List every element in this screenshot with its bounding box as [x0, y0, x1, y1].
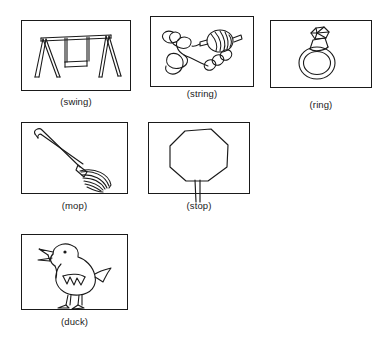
- stop-drawing: [148, 122, 250, 204]
- ring-drawing: [270, 20, 372, 88]
- panel-caption-stop: (stop): [148, 200, 250, 211]
- panel-caption-ring: (ring): [270, 99, 372, 110]
- mop-drawing: [21, 122, 128, 194]
- panel-caption-swing: (swing): [21, 96, 131, 107]
- panel-caption-duck: (duck): [21, 316, 128, 327]
- worksheet-sheet: (swing): [0, 0, 391, 349]
- panel-caption-string: (string): [150, 88, 254, 99]
- duck-drawing: [21, 234, 128, 310]
- panel-caption-mop: (mop): [21, 200, 128, 211]
- swing-drawing: [21, 20, 131, 91]
- string-drawing: [150, 16, 254, 87]
